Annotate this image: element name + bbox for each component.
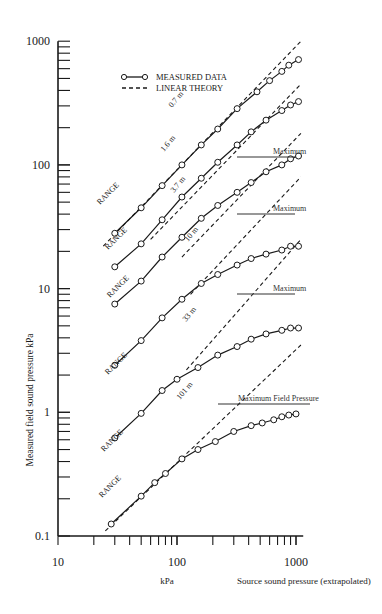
data-point-circle-icon <box>215 159 221 165</box>
data-point-circle-icon <box>296 243 302 249</box>
data-point-circle-icon <box>259 420 265 426</box>
data-point-circle-icon <box>279 108 285 114</box>
data-point-circle-icon <box>108 521 114 527</box>
range-label: RANGE <box>97 473 123 499</box>
data-point-circle-icon <box>279 414 285 420</box>
data-point-circle-icon <box>138 278 144 284</box>
series-1-6-m <box>112 99 302 270</box>
data-point-circle-icon <box>234 142 240 148</box>
data-point-circle-icon <box>234 344 240 350</box>
legend-theory-label: LINEAR THEORY <box>156 83 223 93</box>
data-point-circle-icon <box>195 365 201 371</box>
x-axis-title: Source sound pressure (extrapolated) <box>237 576 371 586</box>
distance-label: 33 m <box>181 304 199 323</box>
data-point-circle-icon <box>296 57 302 63</box>
data-point-circle-icon <box>288 102 294 108</box>
data-point-circle-icon <box>263 251 269 257</box>
range-label: RANGE <box>95 180 121 206</box>
data-point-circle-icon <box>174 376 180 382</box>
maximum-label: Maximum Field Pressure <box>238 394 319 403</box>
distance-label: 101 m <box>175 379 195 401</box>
linear-theory-line <box>186 239 301 370</box>
axes: 0.11101001000101001000 <box>26 34 308 569</box>
range-label: RANGE <box>99 427 125 453</box>
range-label: RANGE <box>105 273 131 299</box>
distance-label: 3.7 m <box>169 174 188 194</box>
linear-theory-line <box>105 345 301 531</box>
data-point-circle-icon <box>138 338 144 344</box>
data-point-circle-icon <box>263 331 269 337</box>
data-point-circle-icon <box>248 129 254 135</box>
data-point-circle-icon <box>248 256 254 262</box>
data-point-circle-icon <box>263 169 269 175</box>
data-point-circle-icon <box>112 264 118 270</box>
legend: MEASURED DATA LINEAR THEORY <box>121 72 227 93</box>
data-point-circle-icon <box>162 471 168 477</box>
y-tick-label: 1 <box>44 405 50 419</box>
data-point-circle-icon <box>138 241 144 247</box>
range-label: RANGE <box>103 225 129 251</box>
data-point-circle-icon <box>254 89 260 95</box>
data-point-circle-icon <box>138 493 144 499</box>
data-point-circle-icon <box>293 411 299 417</box>
data-point-circle-icon <box>279 327 285 333</box>
data-point-circle-icon <box>248 336 254 342</box>
data-point-circle-icon <box>234 262 240 268</box>
data-point-circle-icon <box>288 325 294 331</box>
data-point-circle-icon <box>248 180 254 186</box>
data-point-circle-icon <box>296 325 302 331</box>
linear-theory-line <box>191 177 301 294</box>
data-point-circle-icon <box>279 162 285 168</box>
legend-circle-icon <box>142 74 147 79</box>
data-point-circle-icon <box>198 142 204 148</box>
data-point-circle-icon <box>179 194 185 200</box>
data-point-circle-icon <box>296 99 302 105</box>
distance-label: 1.6 m <box>159 133 178 153</box>
data-point-circle-icon <box>159 315 165 321</box>
data-point-circle-icon <box>138 410 144 416</box>
data-point-circle-icon <box>159 217 165 223</box>
data-point-circle-icon <box>271 417 277 423</box>
data-point-circle-icon <box>286 412 292 418</box>
data-point-circle-icon <box>198 175 204 181</box>
data-point-circle-icon <box>179 162 185 168</box>
data-point-circle-icon <box>198 215 204 221</box>
data-point-circle-icon <box>215 352 221 358</box>
data-point-circle-icon <box>112 301 118 307</box>
x-axis-unit: kPa <box>160 576 174 586</box>
data-point-circle-icon <box>195 447 201 453</box>
maximum-markers: MaximumMaximumMaximumMaximum Field Press… <box>218 147 319 404</box>
legend-circle-icon <box>121 74 126 79</box>
x-tick-label: 100 <box>168 555 186 569</box>
legend-measured-label: MEASURED DATA <box>156 72 228 82</box>
y-tick-label: 1000 <box>26 34 50 48</box>
data-point-circle-icon <box>231 428 237 434</box>
data-point-circle-icon <box>198 280 204 286</box>
measured-line <box>111 414 296 524</box>
data-point-circle-icon <box>159 388 165 394</box>
data-point-circle-icon <box>286 62 292 68</box>
data-point-circle-icon <box>288 243 294 249</box>
data-point-circle-icon <box>138 205 144 211</box>
y-axis-title: Measured field sound pressure kPa <box>25 333 35 467</box>
data-point-circle-icon <box>215 272 221 278</box>
data-point-circle-icon <box>179 456 185 462</box>
y-tick-label: 0.1 <box>35 529 50 543</box>
data-point-circle-icon <box>159 254 165 260</box>
series-labels: RANGE0.7 mRANGE1.6 mRANGE3.7 mRANGE10 mR… <box>95 89 200 499</box>
maximum-label: Maximum <box>273 204 307 213</box>
range-label: RANGE <box>103 350 129 376</box>
y-tick-label: 10 <box>38 282 50 296</box>
maximum-label: Maximum <box>273 147 307 156</box>
data-point-circle-icon <box>248 423 254 429</box>
data-point-circle-icon <box>263 117 269 123</box>
data-point-circle-icon <box>279 247 285 253</box>
x-tick-label: 10 <box>52 555 64 569</box>
y-tick-label: 100 <box>32 158 50 172</box>
data-point-circle-icon <box>212 439 218 445</box>
chart: 0.11101001000101001000 RANGE0.7 mRANGE1.… <box>0 0 382 614</box>
data-point-circle-icon <box>159 183 165 189</box>
data-point-circle-icon <box>267 78 273 84</box>
series-10-m <box>112 243 302 368</box>
data-point-circle-icon <box>215 126 221 132</box>
